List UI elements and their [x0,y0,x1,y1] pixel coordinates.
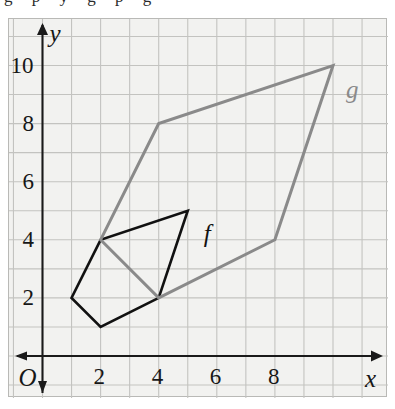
x-tick-label: 2 [94,365,106,388]
x-axis-arrow-right [371,351,383,362]
x-axis-arrow-left [15,352,27,361]
x-tick-label: 4 [152,365,164,388]
y-tick-label: 6 [23,170,35,193]
coordinate-plane-figure: g p y g p g fg2468246810Oxy [0,0,395,409]
plot-area: fg2468246810Oxy [8,18,387,397]
y-tick-label: 2 [23,286,35,309]
y-tick-label: 8 [23,112,35,135]
y-axis-label: y [50,21,61,46]
scan-artifact: g p y g p g [0,0,395,14]
y-tick-label: 10 [11,54,34,77]
x-axis-label: x [365,366,376,391]
origin-label: O [19,365,37,390]
y-axis-arrow-up [37,23,48,35]
x-tick-label: 8 [268,365,280,388]
x-tick-label: 6 [210,365,222,388]
scan-artifact-text: g p y g p g [4,0,159,7]
polygons [72,66,333,327]
shape-label-f: f [204,221,211,246]
y-axis-arrow-down [38,381,47,393]
graph-svg [9,19,388,398]
gridlines [9,19,388,398]
shape-label-g: g [346,77,359,102]
y-tick-label: 4 [23,228,35,251]
